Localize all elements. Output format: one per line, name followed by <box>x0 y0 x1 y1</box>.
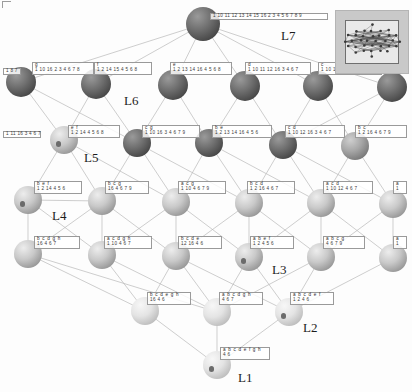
node-object-set: 1 10 11 12 13 14 15 16 2 3 4 5 6 7 8 9 <box>213 14 325 19</box>
network-thumbnail-inset <box>335 10 409 74</box>
node-label-l4-3: b c d1 2 16 4 6 7 <box>247 181 295 194</box>
node-core-dot <box>209 366 215 372</box>
node-label-l6-1: f1 2 14 15 4 5 6 8 <box>94 62 152 75</box>
node-label-l5-0b: 1 11 16 3 4 6 7 <box>3 131 41 138</box>
node-label-top: 1 10 11 12 13 14 15 16 2 3 4 5 6 7 8 9 <box>210 13 328 20</box>
lattice-node-l6-5 <box>377 72 407 102</box>
node-object-set: 1 10 11 12 16 3 4 6 7 <box>248 68 308 73</box>
node-object-set: 1 10 16 2 3 4 6 7 8 <box>35 68 91 73</box>
node-label-l4-4: a c d1 10 12 4 6 7 <box>323 181 373 194</box>
node-core-dot <box>20 201 26 207</box>
level-tag-L7: L7 <box>281 28 295 44</box>
node-label-l2-1: a b c d g h4 6 7 <box>219 292 263 305</box>
node-label-l4-0: b e f1 2 14 4 5 6 <box>34 181 82 194</box>
node-label-l4-1: b c g16 4 6 7 9 <box>105 181 149 194</box>
node-core-dot <box>281 313 287 319</box>
node-core-dot <box>56 141 62 147</box>
node-object-set: 1 2 16 4 6 7 <box>250 187 292 192</box>
level-tag-L4: L4 <box>52 208 66 224</box>
node-label-l4-2: a c g1 10 4 6 7 9 <box>178 181 226 194</box>
node-object-set: 16 4 6 7 9 <box>108 187 146 192</box>
node-object-set: 12 16 4 6 <box>181 242 219 247</box>
node-label-l2-2: a b c d e f1 2 4 6 <box>290 292 334 305</box>
node-label-l5-3: c d1 10 12 16 3 4 6 7 <box>285 125 345 138</box>
node-label-l3-1: a c d g h1 10 4 6 7 <box>104 236 152 249</box>
node-label-l5-4: b c1 2 16 4 6 7 9 <box>355 125 407 138</box>
level-tag-L1: L1 <box>238 370 252 386</box>
node-label-l3-3: a b e f1 2 4 5 6 <box>250 236 294 249</box>
node-object-set: 1 <box>396 187 404 192</box>
node-object-set: 16 4 6 <box>150 298 188 303</box>
node-object-set: 1 2 16 4 6 7 9 <box>358 131 404 136</box>
node-object-set: 1 2 4 5 6 <box>253 242 291 247</box>
node-object-set: 1 10 16 3 4 6 7 9 <box>145 131 197 136</box>
node-label-l6-2: e1 2 13 14 16 4 5 6 8 <box>170 62 232 75</box>
node-object-set: 1 2 14 4 5 6 8 <box>71 131 117 136</box>
level-tag-L5: L5 <box>84 150 98 166</box>
node-label-l5-0: e f1 2 14 4 5 6 8 <box>68 125 120 138</box>
node-label-l1-0: a b c d e f g h4 6 <box>220 347 270 360</box>
node-core-dot <box>241 258 247 264</box>
level-tag-L2: L2 <box>303 320 317 336</box>
node-label-l3-0: b c d g h16 4 6 7 <box>34 236 80 249</box>
node-object-set: 1 11 16 3 4 6 7 <box>6 132 38 137</box>
node-object-set: 1 <box>396 242 404 247</box>
lattice-node-l6-3 <box>230 71 260 101</box>
thumbnail-graph-icon <box>336 11 408 73</box>
node-label-l3-5: a1 <box>393 236 407 249</box>
lattice-node-l6-4 <box>303 71 333 101</box>
node-object-set: 1 2 14 4 5 6 <box>37 187 79 192</box>
node-object-set: 1 2 13 14 16 4 5 6 8 <box>173 68 229 73</box>
node-label-l3-4: a b c g4 6 7 9 <box>323 236 365 249</box>
node-label-l4-5: a1 <box>393 181 407 194</box>
node-label-l6-0: g1 10 16 2 3 4 6 7 8 <box>32 62 94 75</box>
node-object-set: 1 2 14 15 4 5 6 8 <box>97 68 149 73</box>
node-object-set: 4 6 7 <box>222 298 260 303</box>
node-label-l3-2: b c d e12 16 4 6 <box>178 236 222 249</box>
lattice-node-l4-5 <box>379 190 407 218</box>
node-object-set: 1 2 4 6 <box>293 298 331 303</box>
node-object-set: 1 10 4 6 7 9 <box>181 187 223 192</box>
level-tag-L3: L3 <box>272 262 286 278</box>
node-label-l6-0b: 1 8 7 <box>3 68 21 75</box>
node-object-set: 4 6 <box>223 353 267 358</box>
level-tag-L6: L6 <box>124 93 138 109</box>
node-label-l5-2: b e1 2 13 14 16 4 5 6 <box>212 125 272 138</box>
node-label-l6-3: d1 10 11 12 16 3 4 6 7 <box>245 62 311 75</box>
node-object-set: 1 8 7 <box>6 69 18 74</box>
node-object-set: 1 10 12 4 6 7 <box>326 187 370 192</box>
node-object-set: 16 4 6 7 <box>37 242 77 247</box>
node-object-set: 1 2 13 14 16 4 5 6 <box>215 131 269 136</box>
node-label-l2-0: b c d e g h16 4 6 <box>147 292 191 305</box>
node-object-set: 1 10 12 16 3 4 6 7 <box>288 131 342 136</box>
node-label-l5-1: c g1 10 16 3 4 6 7 9 <box>142 125 200 138</box>
node-object-set: 1 10 4 6 7 <box>107 242 149 247</box>
node-object-set: 4 6 7 9 <box>326 242 362 247</box>
lattice-figure: 1 10 11 12 13 14 15 16 2 3 4 5 6 7 8 9g1… <box>0 0 412 392</box>
